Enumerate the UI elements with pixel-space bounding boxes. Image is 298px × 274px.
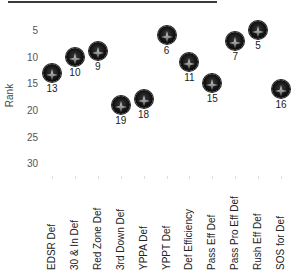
x-tick bbox=[258, 176, 259, 179]
star-icon bbox=[275, 83, 287, 95]
x-category-label: Def Efficiency bbox=[183, 180, 195, 270]
x-category-label: EDSR Def bbox=[46, 180, 58, 270]
data-point-marker bbox=[203, 74, 221, 92]
data-point-marker bbox=[112, 96, 130, 114]
data-label: 9 bbox=[95, 61, 101, 72]
x-category-label: YPPT Def bbox=[161, 180, 173, 270]
x-category-label: 30 & In Def bbox=[69, 180, 81, 270]
star-icon bbox=[69, 51, 81, 63]
data-label: 5 bbox=[255, 40, 261, 51]
x-category-label: Red Zone Def bbox=[92, 180, 104, 270]
y-tick-label: 15 bbox=[20, 78, 38, 89]
x-tick bbox=[189, 176, 190, 179]
data-label: 10 bbox=[69, 67, 80, 78]
x-category-label: Pass Pro Eff Def bbox=[229, 180, 241, 270]
data-label: 18 bbox=[138, 109, 149, 120]
y-tick-label: 25 bbox=[20, 131, 38, 142]
x-category-label: Pass Eff Def bbox=[206, 180, 218, 270]
y-tick-label: 20 bbox=[20, 104, 38, 115]
data-label: 15 bbox=[207, 93, 218, 104]
data-label: 16 bbox=[275, 99, 286, 110]
data-label: 19 bbox=[115, 115, 126, 126]
x-category-label: 3rd Down Def bbox=[115, 180, 127, 270]
data-point-marker bbox=[272, 80, 290, 98]
x-tick bbox=[121, 176, 122, 179]
x-tick bbox=[98, 176, 99, 179]
data-point-marker bbox=[135, 90, 153, 108]
data-point-marker bbox=[43, 64, 61, 82]
x-tick bbox=[212, 176, 213, 179]
data-label: 6 bbox=[164, 45, 170, 56]
x-category-label: Rush Eff Def bbox=[252, 180, 264, 270]
data-label: 11 bbox=[184, 72, 194, 83]
x-tick bbox=[167, 176, 168, 179]
data-point-marker bbox=[89, 42, 107, 60]
x-tick bbox=[75, 176, 76, 179]
star-icon bbox=[161, 29, 173, 41]
rank-scatter-chart: Rank 51015202530 131091918611157516 EDSR… bbox=[0, 0, 298, 274]
x-tick bbox=[144, 176, 145, 179]
x-tick bbox=[281, 176, 282, 179]
data-label: 7 bbox=[232, 51, 238, 62]
star-icon bbox=[229, 35, 241, 47]
star-icon bbox=[252, 24, 264, 36]
data-point-marker bbox=[158, 26, 176, 44]
y-axis-label: Rank bbox=[4, 81, 15, 111]
x-category-label: SOS for Def bbox=[275, 180, 287, 270]
y-tick-label: 30 bbox=[20, 158, 38, 169]
data-point-marker bbox=[180, 53, 198, 71]
data-point-marker bbox=[66, 48, 84, 66]
star-icon bbox=[92, 45, 104, 57]
star-icon bbox=[138, 93, 150, 105]
x-tick bbox=[235, 176, 236, 179]
y-tick-label: 10 bbox=[20, 51, 38, 62]
x-category-label: YPPA Def bbox=[138, 180, 150, 270]
star-icon bbox=[115, 99, 127, 111]
data-point-marker bbox=[226, 32, 244, 50]
data-label: 13 bbox=[46, 83, 57, 94]
star-icon bbox=[183, 56, 195, 68]
star-icon bbox=[46, 67, 58, 79]
data-point-marker bbox=[249, 21, 267, 39]
x-tick bbox=[52, 176, 53, 179]
y-tick-label: 5 bbox=[20, 25, 38, 36]
star-icon bbox=[206, 77, 218, 89]
